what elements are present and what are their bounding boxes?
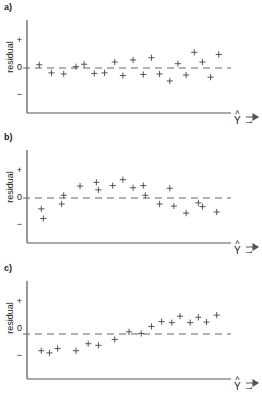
data-point-marker <box>120 72 126 78</box>
data-point-marker <box>195 314 201 320</box>
data-point-marker <box>157 71 163 77</box>
data-point-marker <box>91 70 97 76</box>
residual-plots-figure: a) residual + 0 − ^Y→ b) residual + 0 − … <box>0 0 262 401</box>
data-point-marker <box>55 345 61 351</box>
data-point-marker <box>46 350 52 356</box>
panel-b-x-axis-label: ^Y→ <box>234 245 255 256</box>
panel-b: b) residual + 0 − ^Y→ <box>0 130 262 263</box>
data-point-marker <box>73 64 79 70</box>
panel-c-x-axis-hat: ^ <box>234 376 241 385</box>
data-point-marker <box>148 55 154 61</box>
panel-b-x-axis-hat: ^ <box>234 240 241 249</box>
data-point-marker <box>130 185 136 191</box>
data-point-marker <box>95 342 101 348</box>
data-point-marker <box>120 177 126 183</box>
data-point-marker <box>95 187 101 193</box>
panel-c-x-axis-label: ^Y→ <box>234 381 255 392</box>
data-point-marker <box>112 336 118 342</box>
data-point-marker <box>157 201 163 207</box>
data-point-marker <box>59 201 65 207</box>
data-point-marker <box>167 78 173 84</box>
data-point-marker <box>214 209 220 215</box>
panel-a-x-axis-arrow-icon: → <box>244 115 255 125</box>
data-point-marker <box>191 49 197 55</box>
data-point-marker <box>199 204 205 210</box>
panel-b-x-axis-symbol: ^Y <box>234 246 241 256</box>
data-point-marker <box>183 72 189 78</box>
data-point-marker <box>73 348 79 354</box>
panel-a-x-axis-label: ^Y→ <box>234 115 255 126</box>
data-point-marker <box>148 323 154 329</box>
data-point-marker <box>175 61 181 67</box>
data-point-marker <box>36 62 42 68</box>
data-point-marker <box>203 319 209 325</box>
panel-b-x-axis-arrow-icon: → <box>244 245 255 255</box>
data-point-marker <box>138 330 144 336</box>
data-point-marker <box>110 182 116 188</box>
data-point-marker <box>38 206 44 212</box>
panel-a-x-axis-symbol: ^Y <box>234 116 241 126</box>
data-point-marker <box>214 312 220 318</box>
data-point-marker <box>167 185 173 191</box>
data-point-marker <box>187 320 193 326</box>
data-point-marker <box>177 313 183 319</box>
data-point-marker <box>208 74 214 80</box>
data-point-marker <box>85 341 91 347</box>
data-point-marker <box>61 71 67 77</box>
panel-c-x-axis-arrow-icon: → <box>244 381 255 391</box>
panel-c: c) residual + 0 − ^Y→ <box>0 261 262 394</box>
data-point-marker <box>40 215 46 221</box>
data-point-marker <box>112 59 118 65</box>
data-point-group <box>38 177 220 222</box>
data-point-group <box>36 49 222 84</box>
data-point-marker <box>81 61 87 67</box>
panel-a-plot-area <box>0 0 262 133</box>
data-point-marker <box>77 183 83 189</box>
panel-a-x-axis-hat: ^ <box>234 110 241 119</box>
data-point-marker <box>159 318 165 324</box>
data-point-marker <box>216 51 222 57</box>
panel-c-x-axis-symbol: ^Y <box>234 382 241 392</box>
data-point-marker <box>93 179 99 185</box>
data-point-marker <box>101 70 107 76</box>
data-point-marker <box>195 200 201 206</box>
data-point-marker <box>183 210 189 216</box>
panel-c-plot-area <box>0 261 262 394</box>
data-point-marker <box>171 203 177 209</box>
data-point-marker <box>199 59 205 65</box>
panel-a: a) residual + 0 − ^Y→ <box>0 0 262 133</box>
panel-b-plot-area <box>0 130 262 263</box>
data-point-marker <box>169 320 175 326</box>
data-point-marker <box>130 57 136 63</box>
data-point-marker <box>140 71 146 77</box>
data-point-marker <box>48 70 54 76</box>
data-point-marker <box>140 182 146 188</box>
data-point-marker <box>38 348 44 354</box>
